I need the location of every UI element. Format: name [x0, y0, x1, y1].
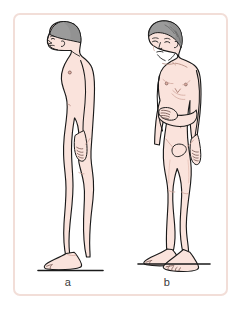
figure-a-body-silhouette [47, 22, 94, 258]
figure-a-foot [44, 252, 81, 270]
figures-canvas [0, 0, 242, 316]
figure-b-anterior [138, 21, 210, 272]
panel-caption-a: a [53, 276, 83, 288]
figure-a-hand [74, 131, 87, 162]
figure-a-lateral [38, 21, 103, 270]
figure-stage [0, 0, 242, 316]
figure-b-neck-lines [158, 54, 175, 61]
illustration-root: Postural changes of ageing [0, 0, 242, 316]
panel-caption-b: b [152, 276, 182, 288]
figure-a-nipple [68, 71, 71, 74]
figure-b-mouth [157, 51, 163, 52]
